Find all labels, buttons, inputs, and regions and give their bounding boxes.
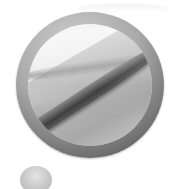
inner-disc <box>28 24 152 146</box>
small-gray-circle-icon <box>20 166 52 189</box>
prohibited-icon <box>16 12 164 158</box>
